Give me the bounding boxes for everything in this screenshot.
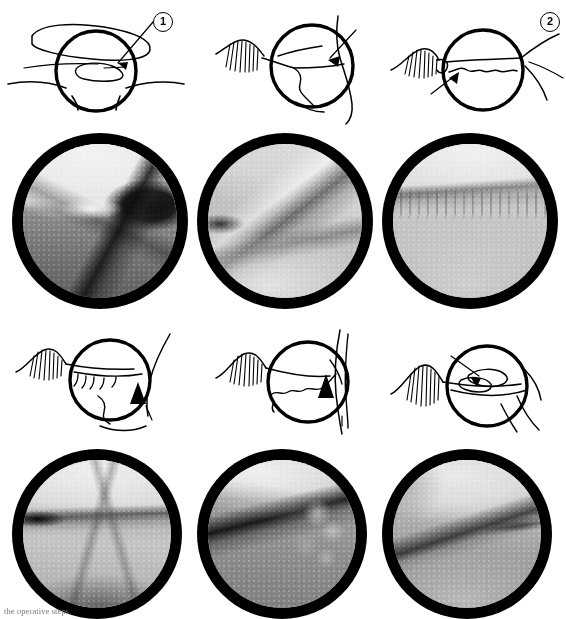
- figure-caption: the operative steps.: [4, 606, 560, 616]
- panel-3: 3: [375, 0, 566, 130]
- figure-root: 1: [0, 0, 566, 619]
- arthroscopic-photo-step-5: [197, 449, 367, 619]
- callout-number-2: 2: [540, 12, 560, 32]
- panel-2: 2: [190, 0, 380, 130]
- schematic-step-3: [375, 0, 566, 130]
- arthroscopic-photo-step-3: [382, 133, 558, 309]
- schematic-step-6: [375, 320, 566, 450]
- arthroscopic-photo-step-6: [382, 449, 552, 619]
- schematic-step-5: [190, 320, 380, 450]
- panel-1: 1: [0, 0, 190, 130]
- schematic-step-4: [0, 320, 190, 450]
- arthroscopic-photo-step-4: [12, 449, 182, 619]
- panel-5: 5: [190, 320, 380, 450]
- callout-number-1: 1: [153, 12, 173, 32]
- arthroscopic-photo-step-2: [197, 133, 373, 309]
- panel-6: 6: [375, 320, 566, 450]
- arthroscopic-photo-step-1: [12, 133, 188, 309]
- panel-4: 4: [0, 320, 190, 450]
- schematic-step-2: [190, 0, 380, 130]
